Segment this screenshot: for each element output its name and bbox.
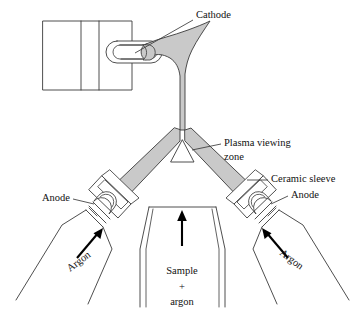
label-anode-left: Anode: [42, 192, 70, 203]
plasma-torch-diagram: Cathode Plasma viewing zone Ceramic slee…: [0, 0, 358, 317]
label-sample-line2: +: [179, 281, 185, 292]
diagram-canvas: Cathode Plasma viewing zone Ceramic slee…: [0, 0, 358, 317]
label-sample-line1: Sample: [166, 265, 198, 276]
label-plasma-viewing-zone-line2: zone: [224, 151, 244, 162]
label-cathode: Cathode: [196, 9, 231, 20]
label-sample-line3: argon: [170, 296, 194, 307]
label-plasma-viewing-zone-line1: Plasma viewing: [224, 137, 292, 148]
label-anode-right: Anode: [291, 189, 319, 200]
label-ceramic-sleeve: Ceramic sleeve: [271, 173, 336, 184]
